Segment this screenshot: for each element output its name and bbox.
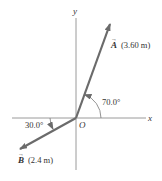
vector-a-magnitude: (3.60 m) xyxy=(121,40,150,50)
vector-a-arrow-mark: → xyxy=(111,36,117,42)
vector-b-arrow-mark: → xyxy=(18,151,24,157)
y-axis-label: y xyxy=(72,6,77,16)
vector-b-magnitude: (2.4 m) xyxy=(28,155,53,165)
angle-a-label: 70.0° xyxy=(102,97,120,107)
origin-label: O xyxy=(79,120,86,130)
angle-a-arc xyxy=(85,95,102,119)
x-axis-label: x xyxy=(147,113,152,123)
angle-b-label: 30.0° xyxy=(25,120,43,130)
angle-b-arc xyxy=(50,118,53,129)
vector-diagram: x y O A → (3.60 m) 70.0° B → (2.4 m) 30.… xyxy=(0,0,162,181)
